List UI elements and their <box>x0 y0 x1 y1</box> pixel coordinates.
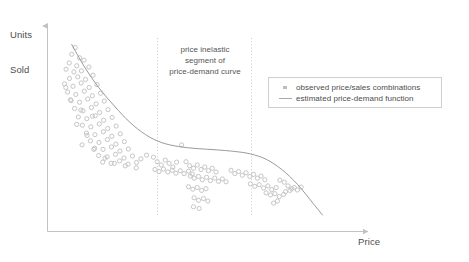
scatter-point <box>82 58 86 62</box>
y-axis-label-line2: Sold <box>10 64 32 76</box>
legend-label-observed: observed price/sales combinations <box>296 83 420 93</box>
scatter-point <box>174 160 178 164</box>
legend-label-estimated: estimated price-demand function <box>296 94 414 104</box>
scatter-point <box>200 178 204 182</box>
scatter-point <box>87 85 91 89</box>
scatter-point <box>167 161 171 165</box>
scatter-point <box>186 185 190 189</box>
scatter-point <box>184 160 188 164</box>
scatter-point <box>118 159 122 163</box>
scatter-point <box>106 108 110 112</box>
scatter-point <box>64 67 68 71</box>
scatter-point <box>134 160 138 164</box>
scatter-point <box>70 52 74 56</box>
scatter-point <box>114 124 118 128</box>
scatter-point <box>67 76 71 80</box>
scatter-point <box>97 140 101 144</box>
scatter-point <box>268 193 272 197</box>
scatter-point <box>195 185 199 189</box>
scatter-point <box>197 206 201 210</box>
scatter-point <box>192 176 196 180</box>
scatter-point <box>126 147 130 151</box>
scatter-point <box>93 133 97 137</box>
scatter-point <box>196 174 200 178</box>
annotation-line-1: price inelastic <box>158 44 252 55</box>
scatter-point <box>195 163 199 167</box>
scatter-point <box>130 154 134 158</box>
scatter-point <box>102 118 106 122</box>
scatter-point <box>82 89 86 93</box>
scatter-point <box>257 183 261 187</box>
scatter-point <box>153 167 157 171</box>
scatter-point <box>201 197 205 201</box>
scatter-point <box>159 163 163 167</box>
scatter-point <box>97 122 101 126</box>
scatter-point <box>105 137 109 141</box>
scatter-point <box>272 201 276 205</box>
scatter-point <box>144 153 148 157</box>
scatter-point <box>295 188 299 192</box>
scatter-point <box>113 152 117 156</box>
scatter-point <box>79 81 83 85</box>
y-axis-label-line1: Units <box>10 29 32 41</box>
scatter-point <box>88 139 92 143</box>
scatter-point <box>151 155 155 159</box>
scatter-point <box>178 169 182 173</box>
scatter-point <box>75 122 79 126</box>
scatter-point <box>205 175 209 179</box>
scatter-point <box>75 64 79 68</box>
scatter-point <box>161 167 165 171</box>
scatter-point <box>97 153 101 157</box>
scatter-point <box>134 166 138 170</box>
scatter-point <box>122 140 126 144</box>
scatter-point <box>85 117 89 121</box>
scatter-point <box>186 169 190 173</box>
scatter-point <box>182 172 186 176</box>
price-demand-chart: Units Sold Price price inelastic segment… <box>0 0 469 262</box>
x-axis-label: Price <box>358 236 380 248</box>
scatter-point <box>270 187 274 191</box>
scatter-point <box>72 70 76 74</box>
scatter-point <box>118 132 122 136</box>
inelastic-segment-annotation: price inelastic segment of price-demand … <box>158 44 252 77</box>
scatter-point <box>253 184 257 188</box>
scatter-point <box>83 77 87 81</box>
scatter-point <box>76 75 80 79</box>
scatter-point <box>87 65 91 69</box>
scatter-point <box>200 188 204 192</box>
scatter-point <box>277 194 281 198</box>
scatter-point <box>66 90 70 94</box>
scatter-point <box>224 180 228 184</box>
scatter-point <box>94 102 98 106</box>
legend-line-marker-icon <box>278 98 292 99</box>
chart-legend: observed price/sales combinations estima… <box>268 77 442 108</box>
scatter-point <box>139 157 143 161</box>
scatter-point <box>191 205 195 209</box>
scatter-point <box>206 199 210 203</box>
scatter-point <box>229 168 233 172</box>
scatter-point <box>273 192 277 196</box>
scatter-point <box>248 182 252 186</box>
scatter-point <box>196 198 200 202</box>
scatter-point <box>79 69 83 73</box>
scatter-point <box>89 125 93 129</box>
scatter-point <box>86 97 90 101</box>
scatter-point <box>278 178 282 182</box>
scatter-point <box>101 130 105 134</box>
annotation-line-3: price-demand curve <box>158 66 252 77</box>
scatter-point <box>72 106 76 110</box>
scatter-point <box>251 172 255 176</box>
annotation-line-2: segment of <box>158 55 252 66</box>
scatter-point <box>191 166 195 170</box>
scatter-point <box>102 99 106 103</box>
scatter-point <box>213 176 217 180</box>
scatter-point <box>266 184 270 188</box>
scatter-point <box>118 149 122 153</box>
y-axis-label: Units Sold <box>10 6 32 98</box>
scatter-point <box>236 169 240 173</box>
scatter-point <box>244 171 248 175</box>
scatter-point <box>77 100 81 104</box>
scatter-point <box>163 158 167 162</box>
scatter-point <box>109 145 113 149</box>
chart-canvas <box>0 0 469 262</box>
